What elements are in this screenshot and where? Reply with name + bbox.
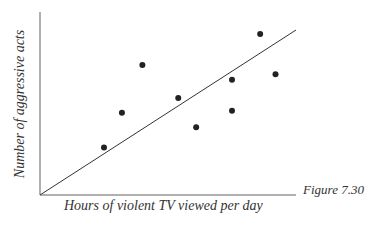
data-point — [101, 144, 107, 150]
data-point — [229, 108, 235, 114]
data-point — [193, 124, 199, 130]
x-axis-label: Hours of violent TV viewed per day — [64, 198, 263, 214]
data-point — [175, 95, 181, 101]
figure-caption: Figure 7.30 — [303, 182, 364, 198]
data-point — [139, 62, 145, 68]
data-point — [257, 31, 263, 37]
data-point — [229, 77, 235, 83]
data-point — [273, 71, 279, 77]
data-point — [119, 110, 125, 116]
trend-line — [40, 30, 296, 195]
data-points — [101, 31, 279, 150]
y-axis-label: Number of aggressive acts — [12, 30, 28, 178]
